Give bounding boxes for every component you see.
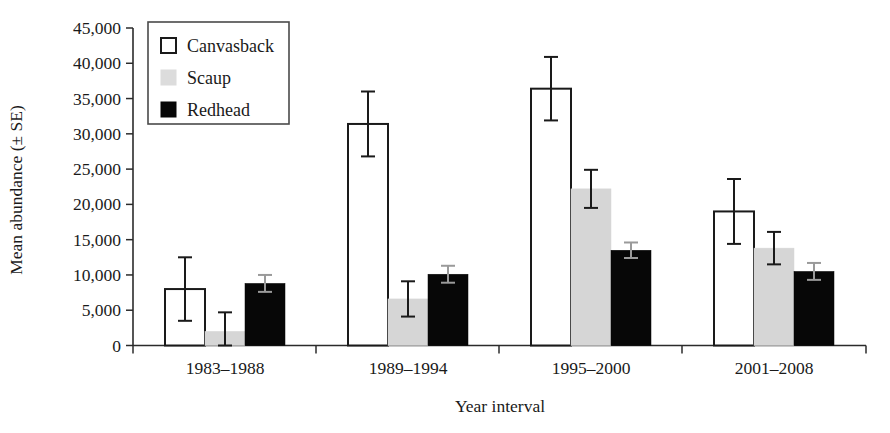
- category-label-1: 1989–1994: [369, 358, 448, 378]
- y-tick-label: 10,000: [73, 265, 121, 285]
- legend-label-scaup: Scaup: [187, 68, 231, 88]
- bar-redhead-3: [794, 271, 834, 345]
- black-square-swatch: [161, 102, 176, 117]
- category-label-3: 2001–2008: [735, 358, 814, 378]
- bar-scaup-2: [571, 189, 611, 346]
- y-tick-label: 25,000: [73, 159, 121, 179]
- legend: Canvasback Scaup Redhead: [148, 22, 289, 124]
- y-tick-label: 35,000: [73, 89, 121, 109]
- bar-canvasback-2: [531, 89, 571, 346]
- open-square-swatch: [161, 38, 176, 53]
- y-tick-label: 15,000: [73, 230, 121, 250]
- y-tick-label: 30,000: [73, 124, 121, 144]
- x-axis-title: Year interval: [455, 396, 545, 416]
- y-tick-label: 0: [112, 336, 121, 356]
- category-labels-layer: 1983–19881989–19941995–20002001–2008: [186, 358, 814, 378]
- legend-label-canvasback: Canvasback: [187, 36, 274, 56]
- y-tick-label: 5,000: [82, 300, 122, 320]
- legend-label-redhead: Redhead: [187, 100, 250, 120]
- y-axis-tick-group: 05,00010,00015,00020,00025,00030,00035,0…: [73, 18, 133, 356]
- bar-chart-figure: 05,00010,00015,00020,00025,00030,00035,0…: [0, 0, 890, 433]
- y-tick-label: 40,000: [73, 53, 121, 73]
- y-tick-label: 45,000: [73, 18, 121, 38]
- category-label-0: 1983–1988: [186, 358, 265, 378]
- bar-redhead-1: [428, 274, 468, 345]
- chart-canvas: 05,00010,00015,00020,00025,00030,00035,0…: [0, 0, 890, 433]
- category-label-2: 1995–2000: [552, 358, 631, 378]
- y-axis-title: Mean abundance (± SE): [6, 105, 26, 275]
- bar-redhead-2: [611, 250, 651, 345]
- gray-square-swatch: [161, 70, 176, 85]
- y-tick-label: 20,000: [73, 194, 121, 214]
- x-axis-tick-group: [133, 346, 866, 354]
